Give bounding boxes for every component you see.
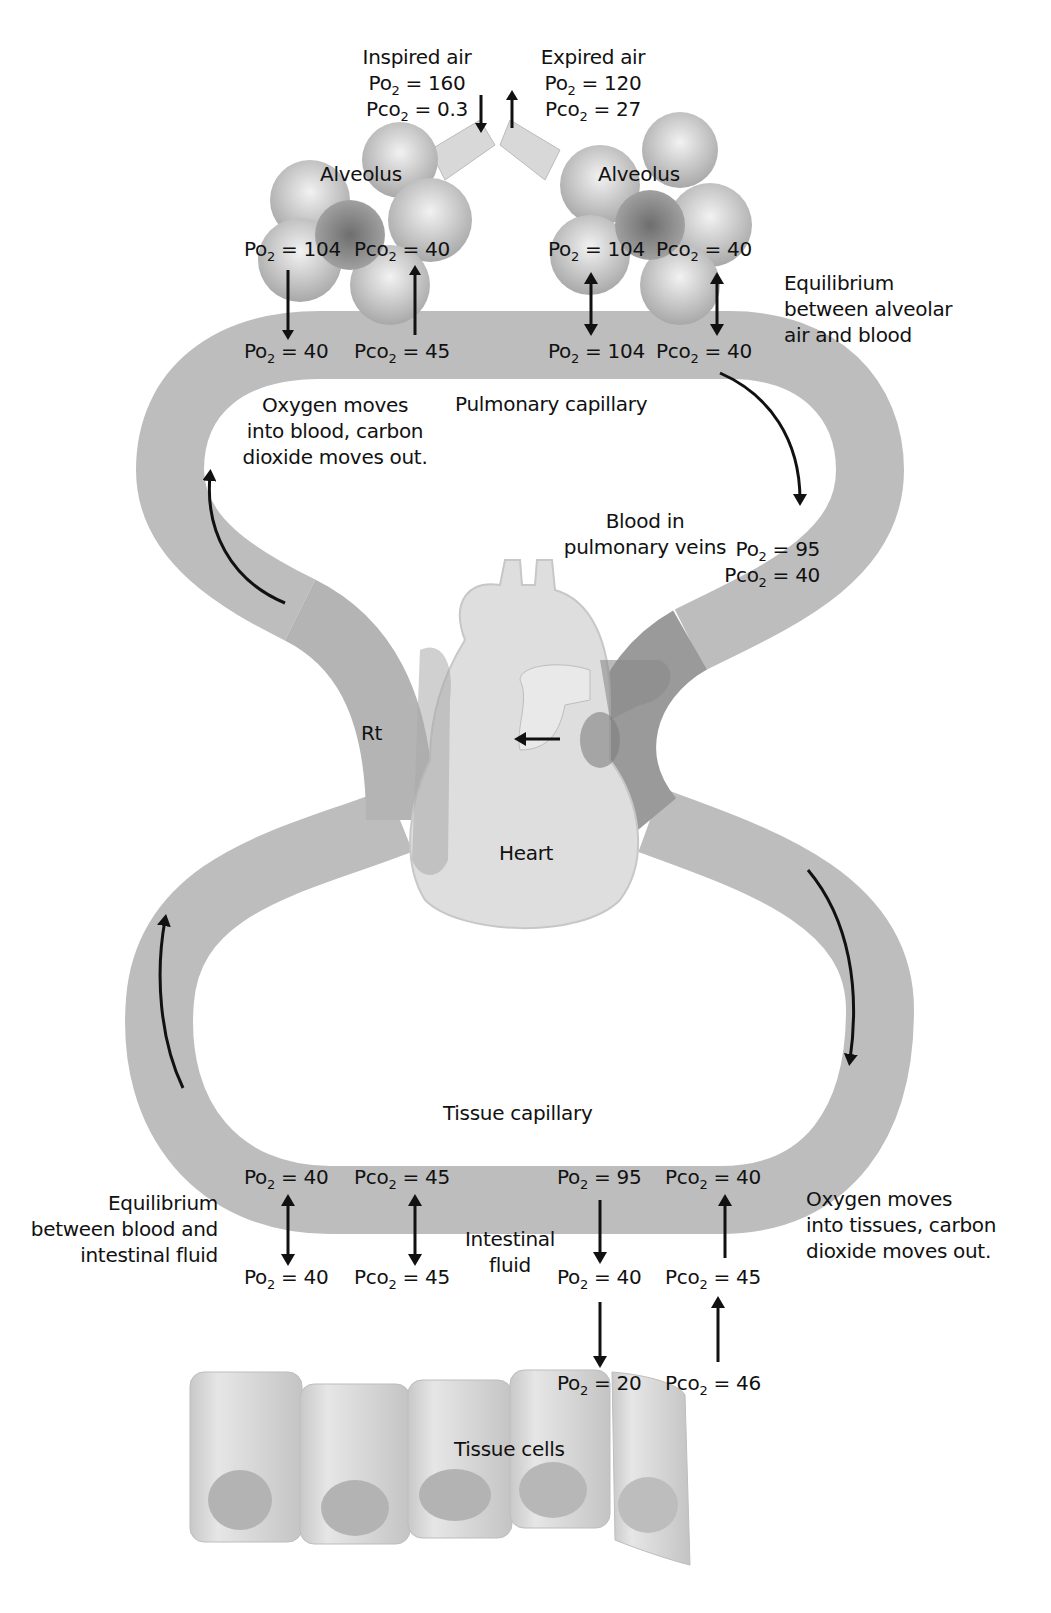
inspired-po2: Po2 = 160 xyxy=(352,70,482,96)
alveolus-right-label: Alveolus xyxy=(598,161,680,187)
inspired-air-title: Inspired air xyxy=(352,44,482,70)
expired-air-block: Expired air Po2 = 120 Pco2 = 27 xyxy=(528,44,658,122)
tissue-cap-left-po2: Po2 = 40 xyxy=(244,1164,328,1190)
pulmonary-left-po2: Po2 = 40 xyxy=(244,338,328,364)
heart-label: Heart xyxy=(499,840,553,866)
tissue-cells-pco2: Pco2 = 46 xyxy=(665,1370,761,1396)
pulmonary-veins-pco2: Pco2 = 40 xyxy=(720,562,820,588)
alveolus-right-po2: Po2 = 104 xyxy=(548,236,645,262)
tissue-cap-right-pco2: Pco2 = 40 xyxy=(665,1164,761,1190)
alveolus-left-label: Alveolus xyxy=(320,161,402,187)
fluid-left-po2: Po2 = 40 xyxy=(244,1264,328,1290)
fluid-right-po2: Po2 = 40 xyxy=(557,1264,641,1290)
tissue-cells-label: Tissue cells xyxy=(454,1436,565,1462)
pulmonary-capillary-label: Pulmonary capillary xyxy=(455,391,647,417)
alveolus-left-illustration xyxy=(258,120,495,325)
circulation-diagram xyxy=(0,0,1051,1613)
tissue-cap-right-po2: Po2 = 95 xyxy=(557,1164,641,1190)
pulmonary-veins-values: Po2 = 95 Pco2 = 40 xyxy=(720,536,820,588)
oxygen-into-blood-note: Oxygen moves into blood, carbon dioxide … xyxy=(240,392,430,470)
tissue-cap-left-pco2: Pco2 = 45 xyxy=(354,1164,450,1190)
equilibrium-alveolar-note: Equilibrium between alveolar air and blo… xyxy=(784,270,952,348)
pulmonary-veins-po2: Po2 = 95 xyxy=(720,536,820,562)
tissue-cells-illustration xyxy=(190,1370,690,1565)
expired-pco2: Pco2 = 27 xyxy=(528,96,658,122)
tissue-cells-po2: Po2 = 20 xyxy=(557,1370,641,1396)
inspired-pco2: Pco2 = 0.3 xyxy=(352,96,482,122)
fluid-right-pco2: Pco2 = 45 xyxy=(665,1264,761,1290)
expired-air-title: Expired air xyxy=(528,44,658,70)
alveolus-right-pco2: Pco2 = 40 xyxy=(656,236,752,262)
tissue-capillary-label: Tissue capillary xyxy=(443,1100,592,1126)
intestinal-fluid-label: Intestinal fluid xyxy=(462,1226,558,1278)
fluid-left-pco2: Pco2 = 45 xyxy=(354,1264,450,1290)
pulmonary-left-pco2: Pco2 = 45 xyxy=(354,338,450,364)
alveolus-left-po2: Po2 = 104 xyxy=(244,236,341,262)
pulmonary-right-po2: Po2 = 104 xyxy=(548,338,645,364)
right-side-label: Rt xyxy=(361,720,382,746)
pulmonary-right-pco2: Pco2 = 40 xyxy=(656,338,752,364)
oxygen-into-tissues-note: Oxygen moves into tissues, carbon dioxid… xyxy=(806,1186,996,1264)
inspired-air-block: Inspired air Po2 = 160 Pco2 = 0.3 xyxy=(352,44,482,122)
alveolus-right-illustration xyxy=(500,112,752,325)
expired-po2: Po2 = 120 xyxy=(528,70,658,96)
pulmonary-veins-label: Blood in pulmonary veins xyxy=(560,508,730,560)
alveolus-left-pco2: Pco2 = 40 xyxy=(354,236,450,262)
equilibrium-intestinal-note: Equilibrium between blood and intestinal… xyxy=(20,1190,218,1268)
